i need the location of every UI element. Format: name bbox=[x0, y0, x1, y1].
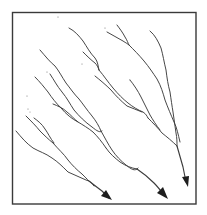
right-tributary-g bbox=[150, 31, 177, 146]
left-tributary-a bbox=[16, 131, 94, 186]
right-mid-channel bbox=[148, 118, 177, 146]
right-upper-long-channel bbox=[129, 45, 180, 142]
speck bbox=[30, 112, 31, 113]
speck bbox=[57, 16, 58, 17]
right-trunk bbox=[177, 146, 186, 182]
speck bbox=[104, 27, 105, 28]
left-stream-system bbox=[16, 108, 112, 200]
speck bbox=[27, 108, 28, 109]
speck bbox=[129, 79, 130, 80]
left-tributary-c bbox=[34, 118, 54, 143]
drainage-diagram bbox=[0, 0, 207, 215]
left-tributary-b bbox=[26, 116, 53, 143]
diagram-svg bbox=[0, 0, 207, 215]
middle-tributary-c bbox=[50, 74, 102, 132]
right-tributary-e bbox=[117, 25, 129, 45]
middle-tributary-a bbox=[40, 50, 101, 131]
middle-merged-channel-b bbox=[106, 148, 137, 169]
right-stream-system bbox=[57, 16, 189, 187]
right-tributary-a bbox=[69, 28, 99, 70]
right-tributary-f bbox=[130, 80, 160, 130]
right-upper-channel bbox=[99, 70, 148, 118]
speck bbox=[26, 95, 27, 96]
right-arrowhead-icon bbox=[182, 176, 189, 187]
middle-merged-channel bbox=[101, 131, 138, 170]
left-mid-channel bbox=[53, 143, 89, 181]
speck bbox=[46, 71, 47, 72]
speck bbox=[81, 63, 82, 64]
middle-tributary-b bbox=[35, 77, 106, 148]
middle-stream-system bbox=[26, 50, 168, 199]
